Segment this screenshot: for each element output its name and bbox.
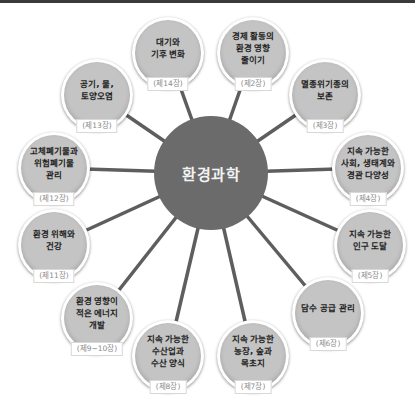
topic-node-ch14: 대기와 기후 변화(제14장) (132, 17, 204, 89)
topic-node-ch4: 지속 가능한 사회, 생태계와 경관 다양성(제4장) (332, 132, 404, 204)
topic-node-ch9-10: 환경 영향이 적은 에너지 개발(제9~10장) (61, 282, 133, 354)
node-title: 경제 활동의 환경 영향 줄이기 (232, 30, 275, 66)
node-title: 지속 가능한 사회, 생태계와 경관 다양성 (341, 145, 395, 181)
chapter-tag: (제14장) (147, 77, 188, 91)
node-title: 멸종위기종의 보존 (301, 78, 349, 102)
chapter-tag: (제6장) (310, 337, 347, 351)
chapter-tag: (제2장) (235, 77, 272, 91)
center-label: 환경과학 (182, 163, 240, 184)
node-title: 대기와 기후 변화 (151, 36, 186, 60)
node-title: 고체폐기물과 위험폐기물 관리 (30, 145, 78, 181)
node-title: 환경 영향이 적은 에너지 개발 (76, 295, 119, 331)
topic-node-ch5: 지속 가능한 인구 도달(제5장) (334, 209, 406, 281)
chapter-tag: (제12장) (33, 192, 74, 206)
center-hub: 환경과학 (154, 116, 268, 230)
chapter-tag: (제8장) (150, 380, 187, 394)
topic-node-ch12: 고체폐기물과 위험폐기물 관리(제12장) (18, 132, 90, 204)
topic-node-ch8: 지속 가능한 수산업과 수산 양식(제8장) (132, 320, 204, 392)
node-title: 지속 가능한 농장, 숲과 목초지 (232, 333, 275, 369)
chapter-tag: (제4장) (350, 192, 387, 206)
node-title: 공기, 물, 토양오염 (80, 78, 113, 102)
topic-node-ch7: 지속 가능한 농장, 숲과 목초지(제7장) (217, 320, 289, 392)
topic-node-ch3: 멸종위기종의 보존(제3장) (289, 59, 361, 131)
node-title: 지속 가능한 인구 도달 (349, 228, 392, 252)
chapter-tag: (제13장) (76, 119, 117, 133)
chapter-tag: (제3장) (307, 119, 344, 133)
node-title: 담수 공급 관리 (301, 302, 355, 314)
topic-node-ch6: 담수 공급 관리(제6장) (292, 277, 364, 349)
topic-node-ch11: 환경 위해와 건강(제11장) (18, 209, 90, 281)
chapter-tag: (제7장) (235, 380, 272, 394)
chapter-tag: (제11장) (33, 269, 74, 283)
topic-node-ch13: 공기, 물, 토양오염(제13장) (61, 59, 133, 131)
topic-node-ch2: 경제 활동의 환경 영향 줄이기(제2장) (217, 17, 289, 89)
node-title: 환경 위해와 건강 (33, 228, 76, 252)
node-title: 지속 가능한 수산업과 수산 양식 (147, 333, 190, 369)
chapter-tag: (제5장) (352, 269, 389, 283)
chapter-tag: (제9~10장) (71, 342, 123, 356)
